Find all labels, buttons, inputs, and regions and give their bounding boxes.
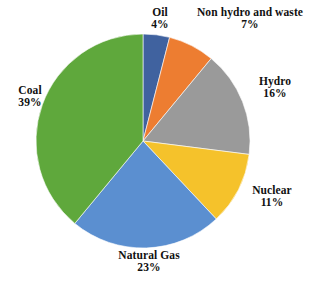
pie-label-coal: Coal 39% bbox=[4, 84, 56, 109]
pie-slice-group bbox=[36, 34, 250, 248]
pie-chart-canvas bbox=[0, 0, 313, 283]
pie-label-coal-value: 39% bbox=[4, 96, 56, 108]
pie-label-oil: Oil 4% bbox=[137, 6, 183, 31]
pie-label-non-hydro-and-waste-name: Non hydro and waste bbox=[186, 6, 313, 18]
pie-label-oil-value: 4% bbox=[137, 18, 183, 30]
pie-label-hydro-value: 16% bbox=[246, 87, 304, 99]
pie-chart: Oil 4% Non hydro and waste 7% Hydro 16% … bbox=[0, 0, 313, 283]
pie-label-hydro: Hydro 16% bbox=[246, 75, 304, 100]
pie-label-natural-gas: Natural Gas 23% bbox=[97, 249, 201, 274]
pie-label-nuclear-value: 11% bbox=[241, 196, 303, 208]
pie-label-non-hydro-and-waste: Non hydro and waste 7% bbox=[186, 6, 313, 31]
pie-label-oil-name: Oil bbox=[137, 6, 183, 18]
pie-label-natural-gas-value: 23% bbox=[97, 261, 201, 273]
pie-label-hydro-name: Hydro bbox=[246, 75, 304, 87]
pie-label-non-hydro-and-waste-value: 7% bbox=[186, 18, 313, 30]
pie-label-nuclear: Nuclear 11% bbox=[241, 184, 303, 209]
pie-label-natural-gas-name: Natural Gas bbox=[97, 249, 201, 261]
pie-label-nuclear-name: Nuclear bbox=[241, 184, 303, 196]
pie-label-coal-name: Coal bbox=[4, 84, 56, 96]
